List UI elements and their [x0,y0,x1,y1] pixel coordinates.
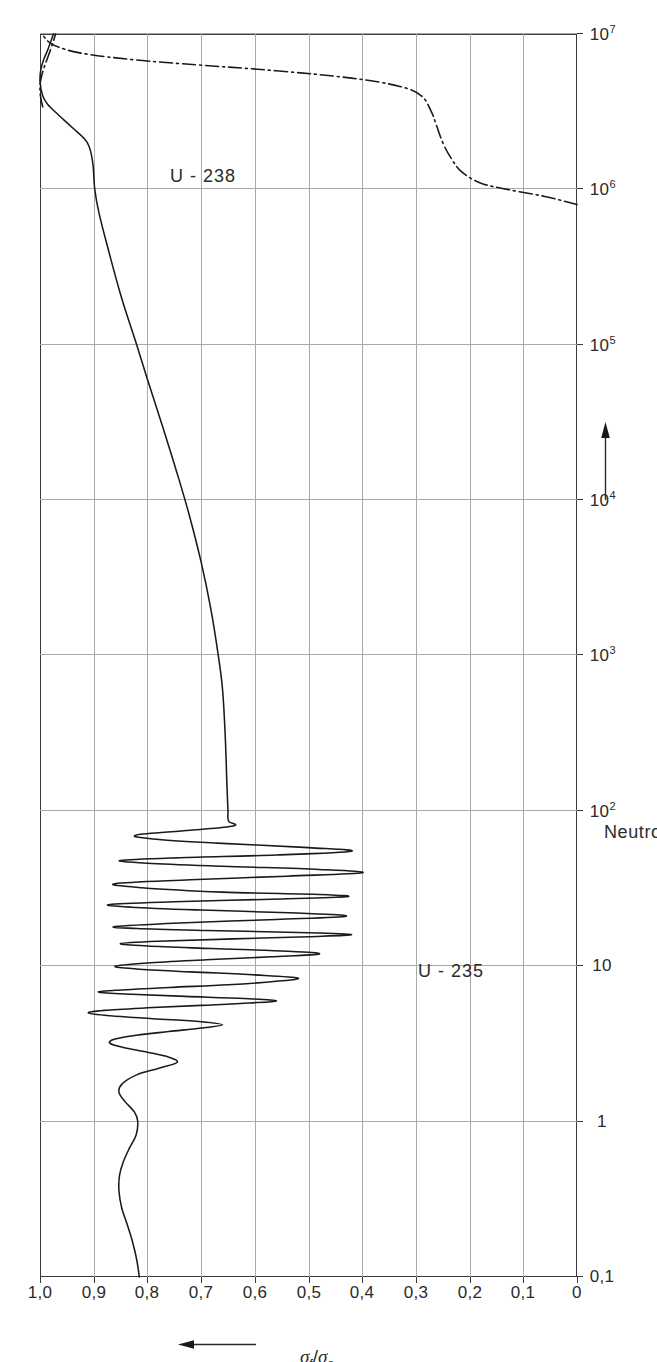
y-tick-label: 0,2 [457,1283,482,1303]
x-tick [577,810,583,811]
x-tick-label: 106 [590,179,616,201]
up-arrow-icon [178,1339,256,1350]
y-tick-label: 0 [572,1283,582,1303]
x-tick [577,499,583,500]
x-tick-label: 0,1 [590,1267,615,1287]
y-tick-label: 0,8 [135,1283,160,1303]
y-tick-label: 0,7 [189,1283,214,1303]
x-axis-title: Neutronenenergie in eV [604,822,657,843]
y-tick-label: 0,1 [511,1283,536,1303]
y-tick-label: 0,4 [350,1283,375,1303]
x-tick-label: 102 [590,800,616,822]
y-tick-label: 0,3 [404,1283,429,1303]
x-tick [577,344,583,345]
right-arrow-icon [600,422,611,500]
curve-u-238-lower [42,34,577,204]
plot-area: U - 235 U - 238 [40,34,577,1277]
x-tick [577,655,583,656]
x-tick-label: 105 [590,334,616,356]
curve-label-u-235: U - 235 [418,961,484,982]
x-tick-label: 103 [590,645,616,667]
x-tick-label: 10 [592,956,612,976]
figure-page: U - 235 U - 238 0,1110102103104105106107… [0,0,657,1362]
curve-label-u-238: U - 238 [170,166,236,187]
x-tick [577,965,583,966]
y-axis-title: σf/σa [300,1346,334,1362]
curves-layer [40,34,577,1277]
x-tick-label: 107 [590,23,616,45]
curve-u-235 [40,34,363,1277]
y-tick-label: 1,0 [28,1283,53,1303]
y-tick-label: 0,6 [243,1283,268,1303]
rotated-figure-stage: U - 235 U - 238 0,1110102103104105106107… [0,0,657,1362]
x-tick [577,1121,583,1122]
x-tick [577,188,583,189]
x-tick [577,33,583,34]
y-axis-sub-a: a [327,1357,334,1362]
y-tick-label: 0,9 [81,1283,106,1303]
x-tick-label: 1 [597,1112,607,1132]
y-axis-sub-f: f [309,1357,312,1362]
y-tick-label: 0,5 [296,1283,321,1303]
